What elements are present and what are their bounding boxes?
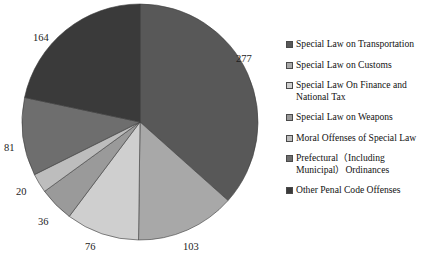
legend-swatch-icon bbox=[286, 114, 293, 121]
legend-swatch-icon bbox=[286, 187, 293, 194]
pie-svg bbox=[20, 2, 260, 242]
pie-slices bbox=[22, 4, 258, 240]
legend-item-label: Moral Offenses of Special Law bbox=[296, 132, 416, 144]
data-label-81: 81 bbox=[4, 142, 15, 153]
pie-plot-area: 277 103 76 36 20 81 164 bbox=[0, 0, 280, 263]
legend-item-label: Special Law on Weapons bbox=[296, 111, 393, 123]
data-label-20: 20 bbox=[16, 186, 27, 197]
data-label-76: 76 bbox=[85, 241, 96, 252]
legend-swatch-icon bbox=[286, 82, 293, 89]
legend-item-label: Special Law on Transportation bbox=[296, 38, 414, 50]
legend-item[interactable]: Other Penal Code Offenses bbox=[286, 184, 420, 196]
legend-swatch-icon bbox=[286, 135, 293, 142]
legend-item[interactable]: Special Law on Customs bbox=[286, 59, 420, 71]
pie-chart-figure: Offenses 277 103 76 36 20 81 164 Special… bbox=[0, 0, 422, 263]
data-label-277: 277 bbox=[236, 53, 252, 64]
data-label-103: 103 bbox=[183, 241, 199, 252]
data-label-164: 164 bbox=[33, 32, 49, 43]
legend-swatch-icon bbox=[286, 41, 293, 48]
legend-item[interactable]: Special Law on Weapons bbox=[286, 111, 420, 123]
legend-item[interactable]: Special Law on Transportation bbox=[286, 38, 420, 50]
legend: Special Law on Transportation Special La… bbox=[286, 38, 420, 205]
legend-item[interactable]: Moral Offenses of Special Law bbox=[286, 132, 420, 144]
legend-swatch-icon bbox=[286, 155, 293, 162]
legend-item[interactable]: Prefectural（Including Municipal）Ordinanc… bbox=[286, 152, 420, 175]
legend-item-label: Other Penal Code Offenses bbox=[296, 184, 401, 196]
legend-swatch-icon bbox=[286, 62, 293, 69]
legend-item-label: Special Law on Customs bbox=[296, 59, 392, 71]
legend-item[interactable]: Special Law On Finance and National Tax bbox=[286, 79, 420, 102]
legend-item-label: Prefectural（Including Municipal）Ordinanc… bbox=[296, 152, 420, 175]
legend-item-label: Special Law On Finance and National Tax bbox=[296, 79, 420, 102]
data-label-36: 36 bbox=[38, 216, 49, 227]
